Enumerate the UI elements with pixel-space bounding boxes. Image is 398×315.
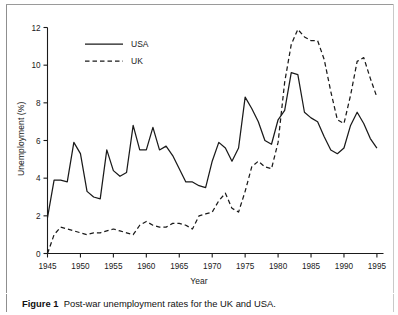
chart-legend: USAUK <box>85 39 149 66</box>
y-tick-label: 8 <box>36 99 41 108</box>
y-tick-label: 4 <box>36 174 41 183</box>
x-tick-label: 1975 <box>236 262 255 271</box>
y-tick-label: 6 <box>36 137 41 146</box>
figure-caption-text: Post-war unemployment rates for the UK a… <box>64 298 276 309</box>
x-tick-label: 1980 <box>269 262 288 271</box>
x-tick-label: 1995 <box>368 262 387 271</box>
series-line-usa <box>48 73 377 218</box>
series-line-uk <box>48 29 377 253</box>
legend-label-usa: USA <box>131 39 149 49</box>
y-tick-label: 2 <box>36 212 41 221</box>
figure-container: USAUK 0246810121945195019551960196519701… <box>0 0 398 315</box>
y-tick-label: 10 <box>31 61 41 70</box>
x-axis-title: Year <box>0 276 398 286</box>
x-tick-label: 1950 <box>71 262 90 271</box>
x-tick-label: 1985 <box>302 262 321 271</box>
figure-caption: Figure 1 Post-war unemployment rates for… <box>22 298 388 310</box>
y-tick-label: 12 <box>31 24 41 33</box>
x-tick-label: 1970 <box>203 262 222 271</box>
x-tick-label: 1960 <box>137 262 156 271</box>
x-tick-label: 1965 <box>170 262 189 271</box>
legend-label-uk: UK <box>131 56 143 66</box>
unemployment-line-chart: USAUK 0246810121945195019551960196519701… <box>0 0 398 292</box>
chart-plot-area: USAUK 0246810121945195019551960196519701… <box>0 0 398 292</box>
x-tick-label: 1990 <box>335 262 354 271</box>
y-axis-title: Unemployment (%) <box>16 102 26 176</box>
chart-axes <box>44 28 384 258</box>
caption-divider <box>6 293 394 294</box>
x-tick-label: 1945 <box>38 262 57 271</box>
y-tick-label: 0 <box>36 250 41 259</box>
chart-series-group <box>48 29 377 253</box>
figure-caption-label: Figure 1 <box>22 298 58 309</box>
x-tick-label: 1955 <box>104 262 123 271</box>
